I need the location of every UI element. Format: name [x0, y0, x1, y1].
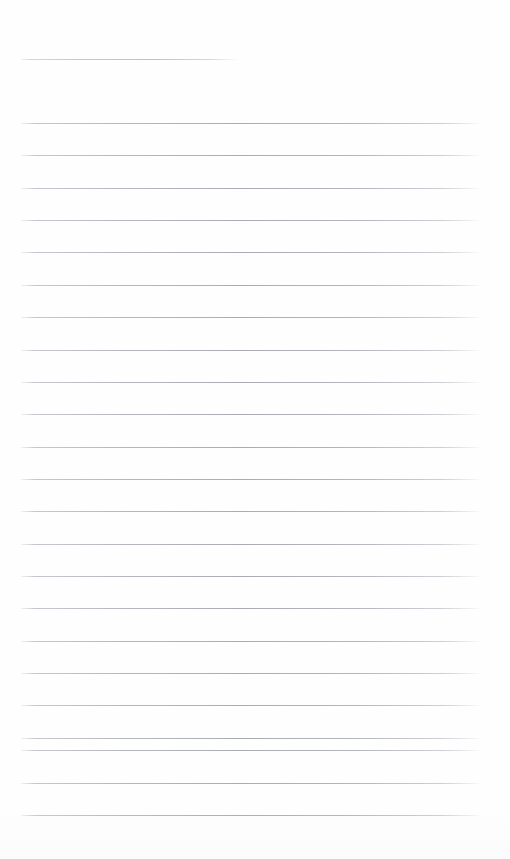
ruled-line [21, 705, 479, 706]
ruled-line [21, 285, 479, 286]
ruled-line [21, 783, 479, 784]
ruled-line [21, 414, 479, 415]
ruled-line [21, 350, 479, 351]
ruled-line [21, 155, 479, 156]
ruled-line [21, 447, 479, 448]
ruled-line [21, 479, 479, 480]
ruled-line [21, 511, 479, 512]
ruled-line [21, 188, 479, 189]
ruled-line [21, 576, 479, 577]
ruled-line [21, 673, 479, 674]
ruled-line [21, 815, 479, 816]
ruled-line [21, 641, 479, 642]
ruled-line [21, 123, 479, 124]
ruled-line [21, 608, 479, 609]
ruled-line [21, 738, 479, 739]
ruled-line [21, 317, 479, 318]
ruled-line [21, 544, 479, 545]
ruled-line-layer [0, 0, 510, 859]
ruled-line [21, 750, 479, 751]
ruled-line [21, 220, 479, 221]
ruled-line [21, 252, 479, 253]
ruled-line [21, 59, 237, 60]
notebook-page [0, 0, 510, 859]
ruled-line [21, 382, 479, 383]
